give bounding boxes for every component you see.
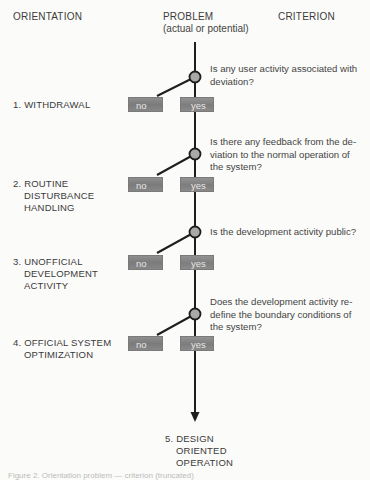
question-2-line-3: the system?: [210, 161, 370, 174]
header-criterion: CRITERION: [278, 11, 335, 22]
criterion-question-4: Does the development activity re- define…: [210, 296, 370, 334]
orientation-4: 4. OFFICIAL SYSTEM OPTIMIZATION: [13, 337, 111, 361]
orientation-2-line-2: DISTURBANCE: [13, 190, 94, 202]
orientation-5-line-1: 5. DESIGN: [165, 433, 233, 445]
orientation-3-line-3: ACTIVITY: [13, 280, 98, 292]
branch-no-4: [157, 314, 195, 335]
arrow-head-icon: [191, 412, 200, 422]
orientation-2-line-3: HANDLING: [13, 202, 94, 214]
yes-box-3: yes: [180, 255, 214, 270]
orientation-5-line-2: ORIENTED: [165, 445, 233, 457]
yes-box-2: yes: [180, 177, 214, 192]
decision-node-icon: [190, 149, 201, 160]
no-box-3: no: [128, 255, 163, 270]
no-box-2: no: [128, 177, 163, 192]
decision-node-icon: [190, 72, 201, 83]
criterion-question-3: Is the development activity public?: [210, 226, 370, 239]
orientation-3: 3. UNOFFICIAL DEVELOPMENT ACTIVITY: [13, 256, 98, 292]
decision-node-icon: [190, 227, 201, 238]
criterion-question-1: Is any user activity associated with dev…: [210, 63, 370, 88]
yes-box-4: yes: [180, 336, 214, 351]
orientation-5: 5. DESIGN ORIENTED OPERATION: [165, 433, 233, 469]
question-4-line-1: Does the development activity re-: [210, 296, 370, 309]
orientation-3-line-1: 3. UNOFFICIAL: [13, 256, 98, 268]
criterion-question-2: Is there any feedback from the de- viati…: [210, 136, 370, 174]
no-box-4: no: [128, 336, 163, 351]
yes-box-1: yes: [180, 97, 214, 112]
figure-caption: Figure 2. Orientation problem — criterio…: [8, 471, 194, 480]
question-2-line-2: viation to the normal operation of: [210, 149, 370, 162]
branch-no-2: [157, 154, 195, 175]
orientation-4-line-2: OPTIMIZATION: [13, 349, 111, 361]
orientation-4-line-1: 4. OFFICIAL SYSTEM: [13, 337, 111, 349]
question-4-line-3: the system?: [210, 321, 370, 334]
orientation-1-line-1: 1. WITHDRAWAL: [13, 99, 90, 110]
decision-node-icon: [190, 309, 201, 320]
header-problem-subtitle: (actual or potential): [163, 23, 249, 34]
no-box-1: no: [128, 97, 163, 112]
orientation-1: 1. WITHDRAWAL: [13, 99, 90, 111]
question-2-line-1: Is there any feedback from the de-: [210, 136, 370, 149]
orientation-3-line-2: DEVELOPMENT: [13, 268, 98, 280]
orientation-5-line-3: OPERATION: [165, 457, 233, 469]
branch-no-3: [157, 232, 195, 253]
header-problem: PROBLEM: [163, 11, 213, 22]
orientation-2-line-1: 2. ROUTINE: [13, 178, 94, 190]
orientation-2: 2. ROUTINE DISTURBANCE HANDLING: [13, 178, 94, 214]
header-orientation: ORIENTATION: [13, 11, 82, 22]
question-4-line-2: define the boundary conditions of: [210, 309, 370, 322]
